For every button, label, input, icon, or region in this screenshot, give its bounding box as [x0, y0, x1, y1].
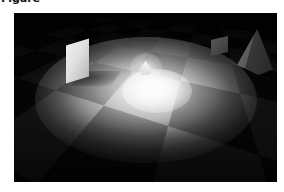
figure-caption-bar: Figure — [0, 0, 284, 7]
white-panel — [66, 38, 89, 83]
checkerboard-floor — [14, 13, 277, 182]
scene-3d-container — [14, 13, 277, 182]
rendered-scene-image — [14, 13, 277, 182]
figure-caption-text: Figure — [1, 0, 40, 5]
